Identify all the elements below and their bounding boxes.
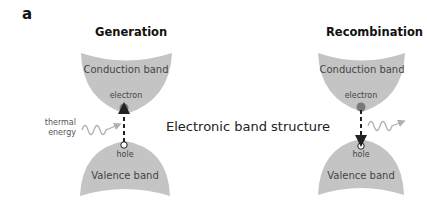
valence-band-label: Valence band — [91, 170, 158, 181]
hole-circle — [358, 143, 364, 149]
generation-title: Generation — [95, 25, 167, 39]
electron-label: electron — [345, 91, 378, 100]
hole-label: hole — [116, 150, 133, 159]
hole-label: hole — [352, 150, 369, 159]
emitted-energy-wave-icon — [368, 122, 402, 131]
thermal-label-line1: thermal — [40, 118, 76, 128]
center-label: Electronic band structure — [166, 119, 330, 134]
electron-label: electron — [110, 91, 143, 100]
valence-band-label: Valence band — [327, 170, 394, 181]
panel-label: a — [22, 5, 32, 23]
thermal-label-line2: energy — [40, 128, 76, 138]
conduction-band-label: Conduction band — [319, 64, 404, 75]
conduction-band-label: Conduction band — [83, 64, 168, 75]
recombination-title: Recombination — [326, 25, 423, 39]
thermal-energy-label: thermal energy — [40, 118, 76, 138]
hole-circle — [121, 142, 127, 148]
thermal-energy-wave-icon — [82, 125, 118, 135]
